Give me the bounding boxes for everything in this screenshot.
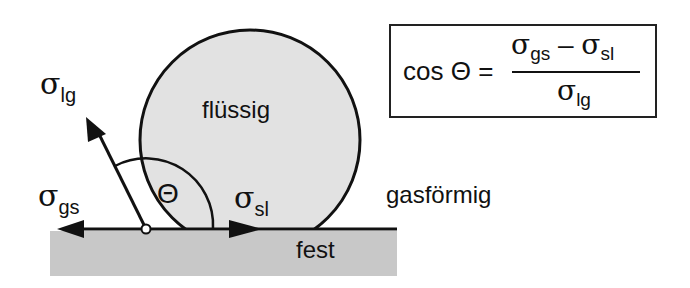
minus-sign: – xyxy=(558,29,574,60)
subscript-lg: lg xyxy=(576,89,591,110)
theta-label: Θ xyxy=(157,178,179,210)
formula-lhs: cos Θ = xyxy=(403,56,493,87)
sigma-symbol: σ xyxy=(581,28,600,61)
formula-denominator: σlg xyxy=(557,74,591,107)
liquid-droplet xyxy=(140,30,360,250)
sigma-lg-label: σlg xyxy=(40,66,76,101)
young-equation-box: cos Θ = σgs – σsl σlg xyxy=(389,24,657,118)
sigma-gs-label: σgs xyxy=(38,178,80,213)
fraction-bar xyxy=(512,71,640,73)
contact-angle-diagram: flüssig gasförmig fest σlg σgs σsl Θ cos… xyxy=(0,0,690,288)
arrow-lg-shaft xyxy=(96,128,146,229)
liquid-label: flüssig xyxy=(202,96,270,124)
subscript-sl: sl xyxy=(600,43,614,64)
solid-substrate xyxy=(50,231,397,276)
subscript-gs: gs xyxy=(58,196,79,218)
sigma-sl-label: σsl xyxy=(234,180,269,215)
formula-numerator: σgs – σsl xyxy=(511,28,614,61)
arrow-lg-head xyxy=(86,117,106,142)
gas-label: gasförmig xyxy=(386,181,491,209)
contact-point xyxy=(142,225,151,234)
subscript-lg: lg xyxy=(60,84,76,106)
subscript-gs: gs xyxy=(530,43,550,64)
sigma-symbol: σ xyxy=(557,74,576,107)
solid-label: fest xyxy=(296,236,335,264)
sigma-symbol: σ xyxy=(511,28,530,61)
sigma-symbol: σ xyxy=(38,178,58,213)
sigma-symbol: σ xyxy=(40,66,60,101)
subscript-sl: sl xyxy=(254,198,268,220)
sigma-symbol: σ xyxy=(234,180,254,215)
